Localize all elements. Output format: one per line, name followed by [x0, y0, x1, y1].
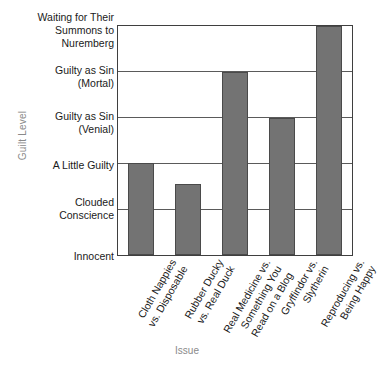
- bar-slot-2: [212, 26, 259, 255]
- bar-slot-3: [258, 26, 305, 255]
- x-axis-title: Issue: [0, 345, 374, 356]
- y-tick-label-4: Guilty as Sin (Mortal): [10, 64, 114, 90]
- bar-reproducing-vs-being-happy[interactable]: [316, 26, 342, 255]
- plot-area: [117, 25, 353, 256]
- y-tick-label-1: Clouded Conscience: [10, 196, 114, 222]
- bar-cloth-nappies-vs-disposable[interactable]: [128, 163, 154, 255]
- y-tick-label-5: Waiting for Their Summons to Nuremberg: [10, 11, 114, 50]
- bar-series: [118, 26, 352, 255]
- y-tick-label-2: A Little Guilty: [10, 159, 114, 172]
- bar-slot-0: [118, 26, 165, 255]
- bar-real-medicine-vs-blog[interactable]: [222, 72, 248, 255]
- bar-slot-1: [165, 26, 212, 255]
- y-tick-label-3: Guilty as Sin (Venial): [10, 110, 114, 136]
- bar-gryffindor-vs-slytherin[interactable]: [269, 118, 295, 255]
- y-tick-label-0: Innocent: [10, 250, 114, 263]
- bar-slot-4: [305, 26, 352, 255]
- bar-rubber-ducky-vs-real-duck[interactable]: [175, 184, 201, 255]
- x-tick-labels: Cloth Nappies vs. Disposable Rubber Duck…: [117, 257, 353, 339]
